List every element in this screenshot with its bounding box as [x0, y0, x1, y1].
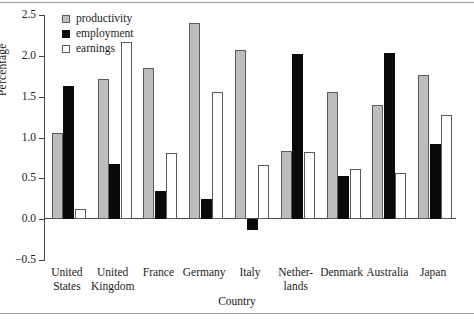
y-tick-label: 2.0	[22, 50, 36, 62]
legend-item-productivity: productivity	[62, 12, 134, 26]
bar-productivity	[189, 23, 200, 219]
bar-group	[418, 15, 452, 260]
y-tick-mark	[39, 15, 44, 16]
bar-productivity	[372, 105, 383, 219]
y-tick-mark	[39, 178, 44, 179]
y-tick-mark	[39, 56, 44, 57]
x-axis-label: Japan	[406, 266, 460, 280]
y-tick-label: 1.0	[22, 132, 36, 144]
legend-swatch-productivity-icon	[62, 15, 70, 23]
bar-earnings	[75, 209, 86, 220]
bar-group	[189, 15, 223, 260]
bar-productivity	[418, 75, 429, 220]
y-tick-label: −0.5	[15, 254, 36, 266]
bar-employment	[155, 191, 166, 219]
y-tick-label: 1.5	[22, 91, 36, 103]
bar-group	[235, 15, 269, 260]
legend-label-productivity: productivity	[76, 13, 132, 25]
bar-employment	[201, 199, 212, 219]
bar-chart-figure: Percentage 2.52.01.51.00.50.0−0.5 United…	[0, 0, 474, 319]
y-tick-mark	[39, 97, 44, 98]
bar-employment	[384, 53, 395, 220]
x-axis-title: Country	[0, 295, 474, 307]
bar-earnings	[166, 153, 177, 219]
bar-employment	[292, 54, 303, 219]
bar-productivity	[327, 92, 338, 219]
y-axis-title: Percentage	[0, 44, 8, 96]
y-tick-label: 2.5	[22, 9, 36, 21]
bar-earnings	[121, 42, 132, 219]
legend-label-employment: employment	[76, 28, 134, 40]
bar-earnings	[441, 115, 452, 219]
bar-employment	[109, 164, 120, 220]
bar-earnings	[350, 169, 361, 219]
bar-group	[281, 15, 315, 260]
bar-earnings	[304, 152, 315, 219]
bar-earnings	[395, 173, 406, 220]
bar-employment	[338, 176, 349, 219]
figure-top-rule	[0, 2, 474, 3]
legend-swatch-employment-icon	[62, 30, 70, 38]
legend-swatch-earnings-icon	[62, 45, 70, 53]
bar-earnings	[258, 165, 269, 219]
bar-group	[372, 15, 406, 260]
chart-legend: productivity employment earnings	[62, 12, 134, 57]
y-tick-label: 0.0	[22, 213, 36, 225]
y-tick-mark	[39, 219, 44, 220]
bar-productivity	[235, 50, 246, 219]
bar-employment	[247, 219, 258, 230]
y-tick-label: 0.5	[22, 173, 36, 185]
bar-productivity	[281, 151, 292, 220]
y-tick-mark	[39, 138, 44, 139]
bar-group	[143, 15, 177, 260]
figure-bottom-rule	[0, 313, 474, 314]
bar-productivity	[143, 68, 154, 219]
y-tick-mark	[39, 260, 44, 261]
bar-earnings	[212, 92, 223, 219]
legend-label-earnings: earnings	[76, 43, 115, 55]
bar-productivity	[98, 79, 109, 219]
bar-employment	[63, 86, 74, 219]
bar-group	[327, 15, 361, 260]
bar-employment	[430, 144, 441, 219]
bar-productivity	[52, 133, 63, 219]
legend-item-employment: employment	[62, 27, 134, 41]
legend-item-earnings: earnings	[62, 42, 134, 56]
